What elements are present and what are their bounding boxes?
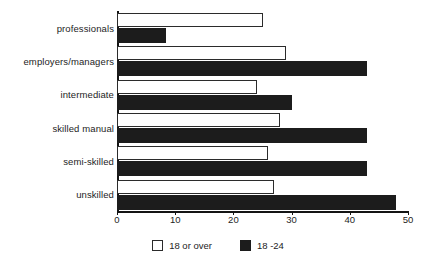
legend-item-18-or-over: 18 or over (152, 240, 212, 251)
legend-label: 18 -24 (257, 240, 284, 251)
y-axis-tick-label: unskilled (0, 189, 114, 200)
bar-group (117, 45, 408, 78)
bar-18-24 (117, 195, 396, 210)
bar-18-24 (117, 28, 166, 43)
bar-18-or-over (117, 80, 257, 94)
y-axis-tick-labels: professionals employers/managers interme… (0, 12, 114, 212)
legend-swatch-icon (240, 240, 251, 251)
y-axis-tick-label: employers/managers (0, 56, 114, 67)
bar-18-24 (117, 128, 367, 143)
x-axis-tick-label: 50 (393, 214, 423, 226)
x-axis-tick-label: 30 (277, 214, 307, 226)
bar-18-or-over (117, 146, 268, 160)
y-axis-tick-label: professionals (0, 23, 114, 34)
y-axis-tick-label: semi-skilled (0, 156, 114, 167)
bar-18-24 (117, 61, 367, 76)
bar-18-24 (117, 161, 367, 176)
bar-group (117, 179, 408, 212)
bar-group (117, 79, 408, 112)
legend-swatch-icon (152, 240, 163, 251)
bar-chart: professionals employers/managers interme… (0, 0, 436, 269)
bar-18-or-over (117, 13, 263, 27)
legend-item-18-24: 18 -24 (240, 240, 284, 251)
x-axis-tick-label: 40 (335, 214, 365, 226)
bar-18-24 (117, 95, 292, 110)
y-axis-tick-label: skilled manual (0, 123, 114, 134)
bar-group (117, 145, 408, 178)
x-axis-tick-label: 20 (218, 214, 248, 226)
bar-18-or-over (117, 180, 274, 194)
legend-label: 18 or over (169, 240, 212, 251)
bar-group (117, 12, 408, 45)
y-axis-tick-label: intermediate (0, 89, 114, 100)
bar-18-or-over (117, 113, 280, 127)
x-axis-tick-label: 10 (160, 214, 190, 226)
bar-18-or-over (117, 46, 286, 60)
plot-area (117, 12, 408, 212)
bar-group (117, 112, 408, 145)
chart-legend: 18 or over 18 -24 (0, 240, 436, 251)
x-axis-tick-label: 0 (102, 214, 132, 226)
